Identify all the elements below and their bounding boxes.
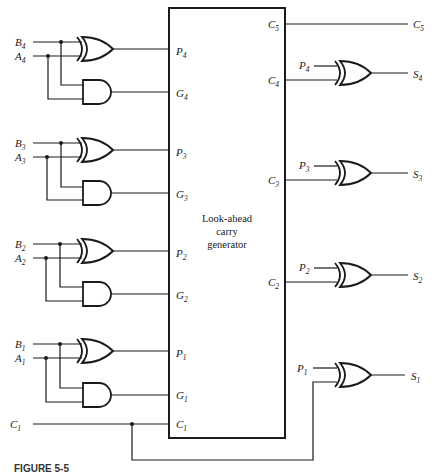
output-label-c5: C5 [413, 18, 424, 33]
input-label-b1: B1 [15, 338, 25, 353]
input-label-c1: C1 [10, 418, 21, 433]
output-label-s1: S1 [411, 370, 420, 385]
output-label-s4: S4 [413, 68, 423, 83]
circuit-diagram: Look-ahead carry generator B4 A4 P4 G4 B… [0, 0, 435, 476]
and-gate-icon [83, 383, 111, 407]
block-label-line-3: generator [207, 239, 247, 250]
input-label-a2: A2 [14, 252, 26, 267]
xor-gate-icon [335, 61, 371, 85]
sum-stage-1: P1 S1 [296, 362, 420, 387]
input-label-a1: A1 [14, 352, 25, 367]
xor-gate-icon [335, 263, 371, 287]
figure-caption: FIGURE 5-5 [14, 463, 69, 474]
sum-stage-4: C4 P4 S4 [268, 59, 423, 89]
input-label-b3: B3 [15, 137, 26, 152]
input-label-b2: B2 [15, 238, 26, 253]
stage-2-input-section: B2 A2 P2 G2 [14, 238, 188, 306]
xor-gate-icon [77, 339, 113, 363]
sum-input-p2: P2 [298, 261, 310, 276]
xor-gate-icon [77, 37, 113, 61]
sum-input-p4: P4 [298, 59, 310, 74]
and-gate-icon [83, 282, 111, 306]
sum-input-p3: P3 [298, 159, 310, 174]
stage-3-input-section: B3 A3 P3 G3 [14, 137, 188, 205]
sum-input-p1: P1 [296, 362, 307, 377]
block-label-line-2: carry [216, 226, 238, 237]
xor-gate-icon [335, 161, 371, 185]
carry-out-section: C5 C5 [268, 18, 424, 33]
output-label-s3: S3 [413, 168, 423, 183]
output-label-s2: S2 [413, 270, 423, 285]
block-label-line-1: Look-ahead [202, 213, 253, 224]
sum-stage-2: C2 P2 S2 [268, 261, 423, 291]
input-label-a3: A3 [14, 151, 26, 166]
and-gate-icon [83, 181, 111, 205]
input-label-a4: A4 [14, 50, 26, 65]
xor-gate-icon [77, 138, 113, 162]
input-label-b4: B4 [15, 36, 26, 51]
stage-1-input-section: B1 A1 P1 G1 [14, 338, 188, 407]
and-gate-icon [83, 80, 111, 104]
sum-stage-3: C3 P3 S3 [268, 159, 423, 189]
xor-gate-icon [335, 363, 371, 387]
xor-gate-icon [77, 239, 113, 263]
stage-4-input-section: B4 A4 P4 G4 [14, 36, 188, 104]
